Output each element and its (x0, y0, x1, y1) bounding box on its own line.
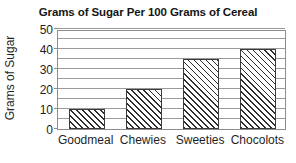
y-tick-label: 20 (19, 84, 53, 96)
y-tick-label: 30 (19, 64, 53, 76)
x-axis-tick-labels: GoodmealChewiesSweetiesChocolots (57, 134, 286, 154)
bar (69, 109, 105, 129)
bar (183, 59, 219, 129)
x-tick-label: Sweeties (176, 134, 225, 146)
bar (126, 89, 162, 129)
y-tick-label: 0 (19, 124, 53, 136)
y-tick-label: 50 (19, 24, 53, 36)
y-tick-mark (54, 28, 58, 29)
bar-chart: Grams of Sugar Per 100 Grams of Cereal G… (0, 0, 296, 163)
y-tick-label: 10 (19, 104, 53, 116)
plot-area (57, 30, 286, 130)
y-tick-label: 40 (19, 44, 53, 56)
y-axis-title: Grams of Sugar (3, 36, 17, 121)
bars-group (58, 31, 285, 129)
x-tick-label: Chewies (120, 134, 166, 146)
bar (240, 49, 276, 129)
x-tick-label: Chocolots (231, 134, 284, 146)
gridline (58, 28, 285, 29)
x-tick-label: Goodmeal (58, 134, 113, 146)
y-axis-tick-labels: 01020304050 (19, 0, 53, 163)
y-axis-title-container: Grams of Sugar (2, 26, 18, 130)
